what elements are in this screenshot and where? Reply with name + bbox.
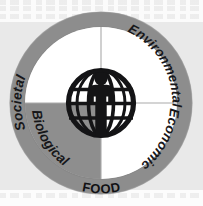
food-sustainability-diagram: Societal Environmental Biological Econom… xyxy=(0,0,203,206)
globe-person-icon xyxy=(69,71,134,137)
ring-label-food: FOOD xyxy=(81,179,122,196)
wheel-graphic: Societal Environmental Biological Econom… xyxy=(0,0,203,206)
